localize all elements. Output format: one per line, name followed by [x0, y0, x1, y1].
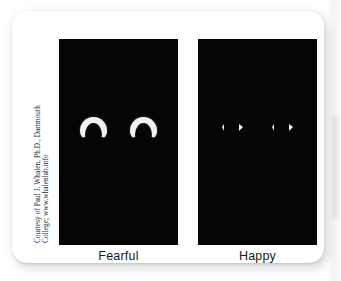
- fearful-eye-right: [130, 117, 157, 141]
- sclera-sliver-outer: [222, 124, 224, 131]
- eye-row-happy: [198, 117, 317, 147]
- sclera-sliver-inner: [239, 124, 243, 131]
- lower-lid: [77, 136, 110, 145]
- stimulus-panels: [59, 39, 317, 245]
- panel-label-happy: Happy: [198, 249, 317, 263]
- credit-text: Courtesy of Paul J. Whalen, Ph.D., Dartm…: [34, 79, 50, 243]
- fearful-eye-left: [80, 117, 107, 141]
- page-edge-shading-inner: [332, 115, 339, 219]
- lower-lid: [127, 136, 160, 145]
- credit-line-1: Courtesy of Paul J. Whalen, Ph.D., Dartm…: [34, 79, 42, 243]
- credit-line-2: College; www.whalenlab.info: [42, 79, 50, 243]
- sclera-sliver-inner: [289, 124, 293, 131]
- page-edge-shading: [327, 0, 341, 281]
- panel-label-fearful: Fearful: [59, 249, 178, 263]
- eye-row-fearful: [59, 117, 178, 147]
- happy-eye-left: [222, 122, 243, 136]
- panel-fearful: [59, 39, 178, 245]
- panel-happy: [198, 39, 317, 245]
- figure-card: Courtesy of Paul J. Whalen, Ph.D., Dartm…: [12, 11, 324, 263]
- eye-whites-figure: Courtesy of Paul J. Whalen, Ph.D., Dartm…: [0, 0, 341, 281]
- happy-eye-right: [272, 122, 293, 136]
- sclera-sliver-outer: [272, 124, 274, 131]
